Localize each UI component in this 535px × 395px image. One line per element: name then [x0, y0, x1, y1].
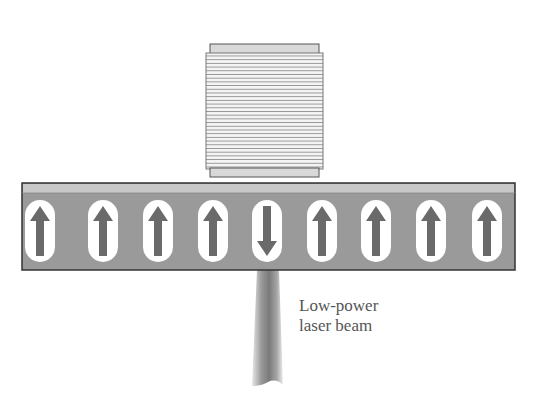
coil-head — [206, 44, 323, 177]
laser-beam — [252, 270, 283, 386]
diagram-canvas — [0, 0, 535, 395]
domain-3 — [198, 200, 228, 262]
domain-7 — [416, 200, 446, 262]
magnetic-medium — [22, 183, 515, 270]
laser-label-line2: laser beam — [299, 316, 378, 336]
domain-6 — [361, 200, 391, 262]
laser-label-line1: Low-power — [299, 296, 378, 316]
domain-5 — [307, 200, 337, 262]
domain-1 — [88, 200, 118, 262]
coil-bottom-cap — [210, 168, 319, 177]
domain-2 — [143, 200, 173, 262]
domain-8 — [472, 200, 502, 262]
medium-top-strip — [23, 184, 514, 193]
domain-4 — [252, 200, 282, 262]
coil-windings — [206, 53, 323, 169]
laser-beam-label: Low-power laser beam — [299, 296, 378, 336]
domain-0 — [25, 200, 55, 262]
